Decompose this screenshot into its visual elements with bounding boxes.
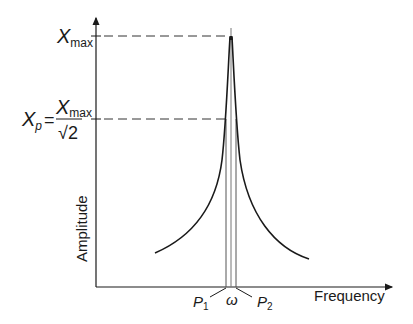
x-axis-label: Frequency (314, 287, 385, 304)
resonance-curve (155, 37, 309, 259)
omega-label: ω (226, 291, 238, 308)
p2-leader (236, 288, 252, 297)
p1-label: P1 (193, 293, 209, 312)
xp-label: Xp (21, 108, 42, 133)
xp-denominator: √2 (58, 123, 78, 143)
xmax-label: Xmax (56, 25, 93, 50)
xp-numerator: Xmax (55, 96, 92, 120)
resonance-diagram: Xmax Xp = Xmax √2 Amplitude Frequency P1… (0, 0, 413, 324)
y-axis-label: Amplitude (73, 195, 90, 262)
p1-leader (210, 288, 226, 297)
xp-equals: = (44, 110, 55, 130)
p2-label: P2 (257, 293, 273, 312)
